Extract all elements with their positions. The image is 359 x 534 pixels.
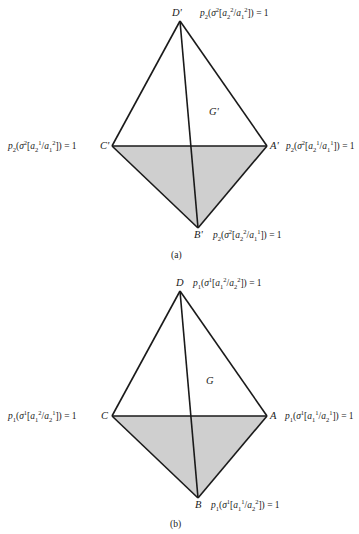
vertex-label-C-b: C bbox=[101, 410, 108, 422]
vertex-label-B-b: B bbox=[195, 499, 201, 511]
shaded-face-b bbox=[112, 416, 267, 498]
vertex-label-A-b: A bbox=[270, 410, 276, 422]
edge-DA-b bbox=[180, 291, 267, 416]
vertex-label-D-b: D bbox=[176, 277, 184, 289]
equation-D-b: p1(σ1[a12/a22]) = 1 bbox=[193, 277, 262, 289]
edge-DC-b bbox=[112, 291, 180, 416]
equation-B-b: p1(σ1[a11/a22]) = 1 bbox=[211, 499, 280, 511]
region-label-b: G bbox=[206, 375, 214, 387]
tetrahedron-b-drawing bbox=[0, 0, 359, 534]
figure-b: D C A B G p1(σ1[a12/a22]) = 1 p1(σ1[a12/… bbox=[0, 0, 359, 534]
equation-C-b: p1(σ1[a12/a21]) = 1 bbox=[8, 410, 77, 422]
caption-b: (b) bbox=[170, 519, 181, 529]
equation-A-b: p1(σ1[a11/a21]) = 1 bbox=[285, 410, 354, 422]
